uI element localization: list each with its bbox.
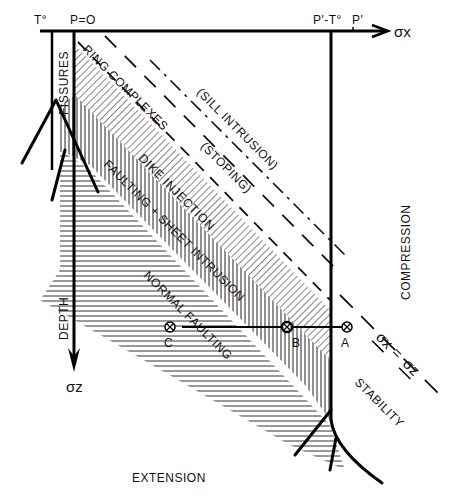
point-a-label: A bbox=[341, 336, 350, 350]
stress-diagram: T° P=O P'-T° P' σx σz FISSURES DEPTH COM… bbox=[0, 0, 449, 502]
p-prime-label: P' bbox=[352, 13, 363, 27]
fissures-label: FISSURES bbox=[57, 51, 71, 115]
point-b bbox=[282, 322, 292, 332]
sigma-z-label: σz bbox=[66, 378, 83, 395]
point-c-label: C bbox=[164, 336, 173, 350]
p-prime-t-label: P'-T° bbox=[313, 13, 342, 27]
compression-label: COMPRESSION bbox=[399, 204, 413, 300]
point-a bbox=[342, 322, 352, 332]
sill-intrusion-label: (SILL INTRUSION) bbox=[194, 85, 281, 172]
equation-right: σz bbox=[400, 355, 424, 379]
extension-label: EXTENSION bbox=[132, 471, 206, 485]
depth-label: DEPTH bbox=[57, 297, 71, 340]
point-c bbox=[165, 322, 175, 332]
point-b-label: B bbox=[292, 336, 301, 350]
stability-label: STABILITY bbox=[352, 375, 407, 430]
equation: σx = σz bbox=[372, 328, 423, 379]
sigma-x-label: σx bbox=[394, 23, 411, 40]
t-zero-label: T° bbox=[34, 13, 47, 27]
p-zero-label: P=O bbox=[70, 13, 96, 27]
